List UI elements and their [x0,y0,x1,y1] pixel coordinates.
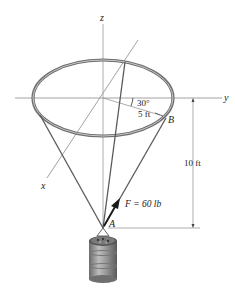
point-A-label: A [108,218,116,229]
force-label: F = 60 lb [124,199,161,209]
barrel [89,236,117,283]
z-axis-label: z [99,12,104,23]
radius-label: 5 ft [138,109,151,119]
force-arrow-head [111,198,120,209]
cable-back [103,62,125,228]
height-dim-arrow-bottom [192,224,195,228]
angle-label: 30° [137,98,150,108]
x-axis-label: x [40,180,46,191]
point-B-label: B [168,114,174,125]
diagram: z y x 30° 5 ft B 10 ft F = 60 lb A [0,0,235,298]
radius-dim-arrow [155,113,163,116]
radius-line [103,98,160,115]
height-dim-arrow-top [192,98,195,102]
angle-arc [131,98,133,106]
hook-rigging [97,228,109,236]
height-label: 10 ft [184,158,201,168]
y-axis-label: y [223,92,229,103]
